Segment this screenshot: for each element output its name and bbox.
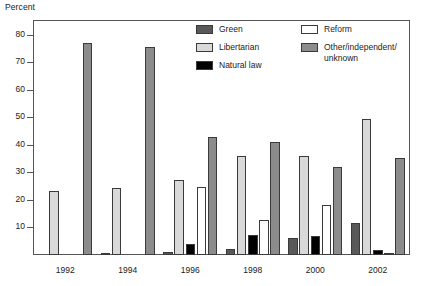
y-axis-tick-label: 40 <box>16 139 25 149</box>
bar <box>237 156 247 255</box>
y-axis-tick-label: 80 <box>16 29 25 39</box>
legend-swatch <box>196 25 213 34</box>
legend-item: Natural law <box>196 60 262 71</box>
bar <box>362 119 372 255</box>
bar <box>163 252 173 255</box>
bar <box>145 47 155 255</box>
bar <box>248 235 258 255</box>
bar <box>83 43 93 255</box>
legend-label: Other/independent/ unknown <box>324 42 397 63</box>
bar-chart: Percent 1020304050607080 199219941996199… <box>0 0 423 286</box>
y-axis-tick-mark <box>27 172 33 173</box>
y-axis-tick-mark <box>27 90 33 91</box>
bar <box>270 142 280 255</box>
x-axis-tick-label: 1994 <box>118 265 137 275</box>
y-axis-tick-label: 60 <box>16 84 25 94</box>
x-axis-tick-label: 1998 <box>243 265 262 275</box>
legend-label: Reform <box>324 24 352 35</box>
y-axis-tick-mark <box>27 145 33 146</box>
bar <box>333 167 343 255</box>
legend-item: Other/independent/ unknown <box>301 42 397 63</box>
bar <box>395 158 405 255</box>
bar <box>112 188 122 255</box>
bar <box>384 253 394 255</box>
legend-item: Reform <box>301 24 397 35</box>
x-axis-tick-label: 2000 <box>306 265 325 275</box>
legend-swatch <box>196 43 213 52</box>
legend-swatch <box>196 61 213 70</box>
bar <box>299 156 309 255</box>
y-axis-tick-label: 70 <box>16 56 25 66</box>
y-axis-title: Percent <box>5 2 35 12</box>
legend-column-right: ReformOther/independent/ unknown <box>301 24 397 70</box>
bar <box>322 205 332 255</box>
bar <box>49 191 59 255</box>
legend-column-left: GreenLibertarianNatural law <box>196 24 262 78</box>
y-axis-tick-label: 50 <box>16 111 25 121</box>
y-axis-tick-mark <box>27 35 33 36</box>
bar <box>186 244 196 255</box>
bar <box>101 253 111 255</box>
legend-swatch <box>301 25 318 34</box>
x-axis: 199219941996199820002002 <box>33 256 411 282</box>
x-axis-tick-label: 1992 <box>56 265 75 275</box>
bar <box>259 220 269 255</box>
legend-label: Libertarian <box>219 42 259 53</box>
bar <box>197 187 207 255</box>
y-axis-tick-label: 10 <box>16 221 25 231</box>
x-axis-tick-label: 2002 <box>368 265 387 275</box>
y-axis-tick-label: 30 <box>16 166 25 176</box>
x-axis-tick-label: 1996 <box>181 265 200 275</box>
bar <box>174 180 184 255</box>
legend-label: Natural law <box>219 60 262 71</box>
bar <box>288 238 298 255</box>
y-axis-tick-label: 20 <box>16 194 25 204</box>
y-axis-tick-mark <box>27 62 33 63</box>
bar <box>351 223 361 255</box>
bar <box>208 137 218 255</box>
bar <box>226 249 236 255</box>
bar <box>311 236 321 255</box>
legend-item: Libertarian <box>196 42 262 53</box>
legend-label: Green <box>219 24 243 35</box>
y-axis: 1020304050607080 <box>0 20 33 256</box>
y-axis-tick-mark <box>27 117 33 118</box>
legend-swatch <box>301 43 318 52</box>
y-axis-tick-mark <box>27 227 33 228</box>
y-axis-tick-mark <box>27 200 33 201</box>
legend-item: Green <box>196 24 262 35</box>
bar <box>373 250 383 256</box>
